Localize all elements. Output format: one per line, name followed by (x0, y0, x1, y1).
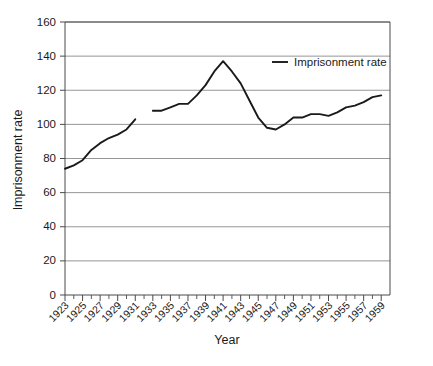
y-tick-label-80: 80 (43, 152, 56, 164)
imprisonment-rate-line-chart: 020406080100120140160 192319251927192919… (0, 0, 433, 366)
y-tick-label-160: 160 (37, 16, 56, 28)
y-tick-label-20: 20 (43, 254, 56, 266)
y-tick-label-100: 100 (37, 118, 56, 130)
figure-caption-fragment (28, 356, 328, 365)
y-tick-label-120: 120 (37, 84, 56, 96)
figure-container: 020406080100120140160 192319251927192919… (0, 0, 433, 366)
y-tick-label-60: 60 (43, 186, 56, 198)
y-tick-label-40: 40 (43, 220, 56, 232)
y-tick-label-0: 0 (50, 289, 56, 301)
legend-label-0: Imprisonment rate (294, 56, 387, 68)
x-axis-title: Year (214, 333, 239, 347)
y-axis-title: Imprisonment rate (11, 110, 25, 211)
y-tick-label-140: 140 (37, 50, 56, 62)
